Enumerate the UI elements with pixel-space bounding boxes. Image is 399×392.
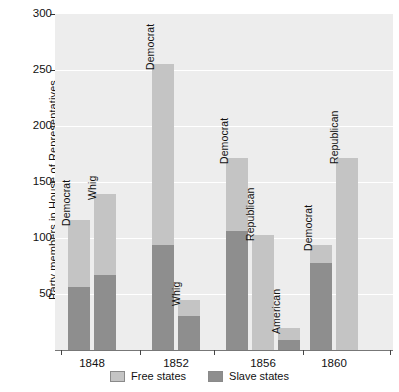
legend-swatch-slave-states (208, 371, 223, 382)
y-tick-label-300: 300 (22, 8, 52, 20)
bar-1852-whig[interactable] (178, 300, 200, 350)
bar-segment-slave (278, 340, 300, 350)
bar-segment-free (336, 158, 358, 350)
legend-item-slave-states[interactable]: Slave states (208, 370, 289, 382)
bar-segment-slave (94, 275, 116, 350)
bar-segment-slave (226, 231, 248, 350)
bar-1860-republican[interactable] (336, 158, 358, 350)
x-tick-mark-1856 (214, 350, 215, 355)
bar-label-1860-democrat: Democrat (302, 205, 314, 251)
y-tick-mark-50 (50, 294, 55, 295)
bar-segment-slave (310, 263, 332, 350)
bar-1848-whig[interactable] (94, 194, 116, 350)
y-tick-label-50: 50 (22, 288, 52, 300)
y-tick-label-250: 250 (22, 64, 52, 76)
y-tick-label-150: 150 (22, 176, 52, 188)
x-tick-label-1860: 1860 (304, 357, 364, 369)
y-tick-label-200: 200 (22, 120, 52, 132)
bar-label-1848-whig: Whig (86, 176, 98, 200)
legend-item-free-states[interactable]: Free states (110, 370, 186, 382)
bar-1860-democrat[interactable] (310, 245, 332, 350)
x-tick-mark-1848 (61, 350, 62, 355)
bar-1852-democrat[interactable] (152, 64, 174, 350)
y-tick-label-100: 100 (22, 232, 52, 244)
bar-segment-slave (68, 287, 90, 350)
bar-1848-democrat[interactable] (68, 220, 90, 350)
y-tick-mark-100 (50, 238, 55, 239)
legend-swatch-free-states (110, 371, 125, 382)
chart-legend: Free states Slave states (0, 370, 399, 382)
x-axis-line (55, 350, 393, 351)
y-tick-mark-250 (50, 70, 55, 71)
x-tick-label-1848: 1848 (62, 357, 122, 369)
bar-label-1852-democrat: Democrat (144, 24, 156, 70)
legend-label-free-states: Free states (131, 370, 186, 382)
y-tick-mark-300 (50, 14, 55, 15)
bar-label-1856-american: American (270, 289, 282, 334)
bar-segment-free (152, 64, 174, 245)
y-tick-mark-150 (50, 182, 55, 183)
bar-label-1860-republican: Republican (328, 110, 340, 164)
x-tick-mark-1852 (140, 350, 141, 355)
x-tick-mark-1860 (303, 350, 304, 355)
x-tick-label-1856: 1856 (233, 357, 293, 369)
bar-label-1848-democrat: Democrat (60, 180, 72, 226)
stacked-bar-chart: Party members in House of Representative… (0, 0, 399, 392)
gridline-250 (55, 70, 393, 71)
bar-segment-free (68, 220, 90, 287)
bar-label-1856-democrat: Democrat (218, 118, 230, 164)
bar-label-1852-whig: Whig (170, 282, 182, 306)
x-tick-label-1852: 1852 (146, 357, 206, 369)
legend-label-slave-states: Slave states (229, 370, 289, 382)
x-tick-mark-end (390, 350, 391, 355)
y-tick-mark-200 (50, 126, 55, 127)
bar-segment-slave (178, 316, 200, 350)
bar-label-1856-republican: Republican (244, 187, 256, 241)
bar-segment-free (94, 194, 116, 275)
